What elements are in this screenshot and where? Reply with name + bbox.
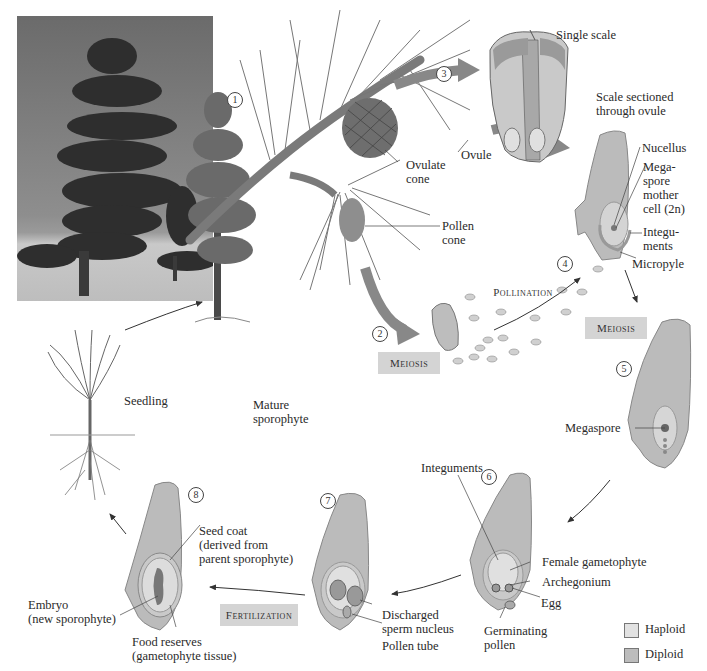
legend-label-diploid: Diploid <box>645 647 683 661</box>
step-4-marker: 4 <box>557 256 573 272</box>
pollen-grains <box>453 266 603 364</box>
label-female-gametophyte: Female gametophyte <box>542 555 646 569</box>
scale-section-illustration <box>575 131 630 260</box>
label-megaspore: Megaspore <box>565 421 621 435</box>
label-archegonium: Archegonium <box>542 575 611 589</box>
meiosis-left-box: Meiosis <box>378 352 440 374</box>
step-1-marker: 1 <box>227 92 243 108</box>
step-6-marker: 6 <box>481 469 497 485</box>
legend-label-haploid: Haploid <box>645 622 685 636</box>
legend-swatch-diploid <box>624 648 639 663</box>
label-scale-sectioned: Scale sectioned through ovule <box>596 90 673 118</box>
label-integuments-6: Integuments <box>421 461 483 475</box>
label-seed-coat: Seed coat (derived from parent sporophyt… <box>199 524 293 566</box>
seedling-illustration <box>48 330 135 500</box>
label-nucellus: Nucellus <box>642 141 686 155</box>
step-8-marker: 8 <box>188 487 204 503</box>
label-egg: Egg <box>541 596 561 610</box>
step-7-marker: 7 <box>320 493 336 509</box>
label-micropyle: Micropyle <box>632 257 684 271</box>
label-integuments-top: Integu- ments <box>643 225 679 253</box>
pollen-cone <box>339 198 365 242</box>
label-pollen-cone: Pollen cone <box>442 219 474 247</box>
pollen-cone-small <box>432 303 458 350</box>
label-ovulate-cone: Ovulate cone <box>406 158 446 186</box>
meiosis-right-box: Meiosis <box>585 317 647 339</box>
step-5-marker: 5 <box>616 361 632 377</box>
step-3-marker: 3 <box>436 66 452 82</box>
step-2-marker: 2 <box>372 326 388 342</box>
label-seedling: Seedling <box>124 394 168 408</box>
ovule-step6-illustration <box>470 473 532 610</box>
ovule-step7-illustration <box>312 493 369 630</box>
label-single-scale: Single scale <box>556 28 616 42</box>
label-ovule: Ovule <box>461 148 492 162</box>
label-discharged-sperm: Discharged sperm nucleus <box>382 608 454 636</box>
legend-swatch-haploid <box>624 623 639 638</box>
pollination-label: Pollination <box>483 285 563 299</box>
label-embryo: Embryo (new sporophyte) <box>28 598 116 626</box>
fertilization-box: Fertilization <box>220 604 298 626</box>
label-food-reserves: Food reserves (gametophyte tissue) <box>132 635 237 663</box>
single-scale-illustration <box>490 30 568 162</box>
label-mature-sporophyte: Mature sporophyte <box>253 398 309 426</box>
label-megaspore-mother-cell: Mega- spore mother cell (2n) <box>643 160 685 216</box>
ovule-step5-illustration <box>628 319 691 468</box>
label-pollen-tube: Pollen tube <box>382 639 439 653</box>
label-germinating-pollen: Germinating pollen <box>484 624 547 652</box>
